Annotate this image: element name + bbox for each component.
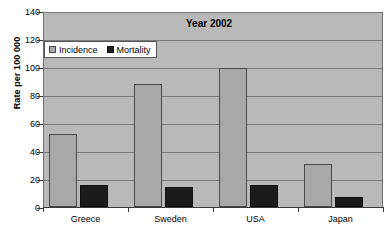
bar-japan-incidence (304, 164, 332, 207)
y-tick-label: 140 (4, 8, 40, 17)
legend-swatch-mortality-icon (107, 46, 114, 53)
y-tick-mark (37, 124, 43, 125)
bar-sweden-mortality (165, 187, 193, 207)
y-tick-mark (37, 152, 43, 153)
y-axis-title: Rate per 100 000 (12, 18, 22, 128)
x-tick-label-japan: Japan (328, 214, 353, 224)
legend-entry-mortality: Mortality (107, 45, 151, 55)
x-tick-mark (383, 207, 384, 212)
y-tick-label: 100 (4, 64, 40, 73)
gridline (44, 68, 382, 69)
x-tick-label-usa: USA (246, 214, 265, 224)
y-tick-mark (37, 96, 43, 97)
bar-japan-mortality (335, 197, 363, 207)
x-tick-label-greece: Greece (71, 214, 101, 224)
gridline (44, 12, 382, 13)
y-tick-label: 20 (4, 176, 40, 185)
y-tick-mark (37, 68, 43, 69)
y-tick-label: 0 (4, 204, 40, 213)
bar-usa-incidence (219, 68, 247, 207)
legend-label-mortality: Mortality (117, 45, 151, 55)
legend-label-incidence: Incidence (59, 45, 98, 55)
chart-legend: Incidence Mortality (44, 41, 157, 58)
x-tick-label-sweden: Sweden (154, 214, 187, 224)
y-tick-label: 40 (4, 148, 40, 157)
bar-usa-mortality (250, 185, 278, 207)
gridline (44, 96, 382, 97)
bar-sweden-incidence (134, 84, 162, 207)
y-tick-label: 80 (4, 92, 40, 101)
y-tick-label: 60 (4, 120, 40, 129)
gridline (44, 152, 382, 153)
x-tick-mark (298, 207, 299, 212)
x-tick-mark (43, 207, 44, 212)
bar-chart: Rate per 100 000 Year 2002 Incidence Mor… (0, 0, 392, 235)
y-tick-label: 120 (4, 36, 40, 45)
y-tick-mark (37, 40, 43, 41)
chart-title: Year 2002 (186, 18, 232, 29)
bar-greece-incidence (49, 134, 77, 207)
legend-entry-incidence: Incidence (49, 45, 98, 55)
x-tick-mark (128, 207, 129, 212)
x-tick-mark (213, 207, 214, 212)
bar-greece-mortality (80, 185, 108, 207)
gridline (44, 124, 382, 125)
y-tick-mark (37, 180, 43, 181)
legend-swatch-incidence-icon (49, 46, 56, 53)
y-tick-mark (37, 12, 43, 13)
